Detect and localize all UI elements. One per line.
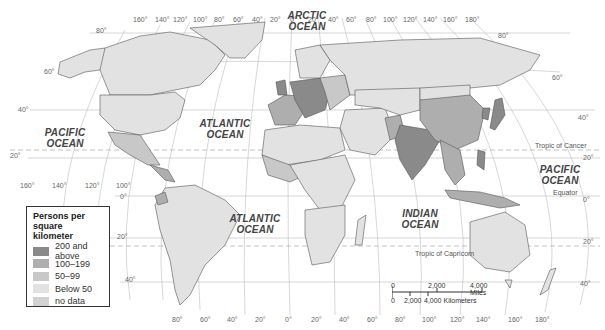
legend-swatch [33, 247, 49, 256]
alaska [58, 48, 108, 78]
legend-swatch [33, 259, 49, 268]
korea [482, 108, 490, 120]
southern-africa [305, 205, 345, 265]
philippines [477, 150, 485, 170]
russia [320, 38, 540, 95]
legend-item-200-above: 200 and above [33, 245, 103, 258]
indonesia [445, 190, 520, 208]
legend-item-below-50: Below 50 [33, 283, 103, 296]
legend-title: Persons per square kilometer [33, 211, 103, 241]
scale-km-end: 4,000 Kilometers [424, 297, 477, 304]
madagascar [355, 215, 366, 245]
uk [276, 80, 287, 95]
legend-swatch [33, 272, 49, 281]
equator-label: Equator [553, 189, 578, 196]
middle-east [340, 108, 395, 155]
new-zealand [540, 268, 556, 295]
legend-swatch [33, 297, 49, 306]
central-america [150, 165, 175, 182]
legend-item-no-data: no data [33, 295, 103, 308]
legend-item-50-99: 50–99 [33, 270, 103, 283]
atlantic-ocean-south-label: ATLANTIC OCEAN [225, 213, 285, 235]
scale-bar: 0 2,000 4,000 Miles 0 2,000 4,000 Kilome… [392, 282, 492, 308]
tropic-of-capricorn-label: Tropic of Capricorn [415, 250, 474, 257]
mexico [108, 132, 160, 165]
usa [100, 92, 185, 135]
scale-km-zero: 0 [391, 297, 395, 304]
tropic-of-cancer-label: Tropic of Cancer [535, 142, 586, 149]
legend-swatch [33, 284, 49, 293]
pacific-ocean-east-label: PACIFIC OCEAN [530, 164, 590, 186]
scale-miles-end: 4,000 Miles [470, 282, 492, 296]
indian-ocean-label: INDIAN OCEAN [390, 208, 450, 230]
atlantic-ocean-north-label: ATLANTIC OCEAN [195, 118, 255, 140]
central-africa [290, 155, 355, 210]
scale-miles-mid: 2,000 [428, 282, 446, 289]
australia [470, 212, 530, 272]
south-america [155, 185, 240, 305]
pacific-ocean-west-label: PACIFIC OCEAN [35, 127, 95, 149]
legend: Persons per square kilometer 200 and abo… [26, 206, 110, 307]
japan [490, 98, 505, 130]
scale-km-mid: 2,000 [404, 297, 422, 304]
scale-miles-zero: 0 [391, 282, 395, 289]
